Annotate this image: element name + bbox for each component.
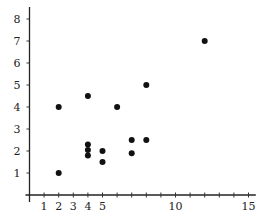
data-point	[56, 170, 62, 176]
y-tick-label: 2	[14, 145, 21, 158]
x-tick-label: 4	[84, 200, 91, 213]
data-point	[129, 150, 135, 156]
y-tick-label: 6	[14, 57, 21, 70]
y-tick-label: 4	[14, 101, 21, 114]
y-tick-label: 1	[14, 167, 21, 180]
y-tick-label: 3	[14, 123, 21, 136]
data-point	[143, 82, 149, 88]
scatter-plot: 123451015 12345678	[0, 0, 265, 218]
x-tick-label: 10	[169, 200, 183, 213]
y-tick-label: 8	[14, 13, 21, 26]
y-ticks: 12345678	[14, 13, 30, 180]
data-point	[202, 38, 208, 44]
y-tick-label: 5	[14, 79, 21, 92]
data-point	[114, 104, 120, 110]
data-point	[85, 93, 91, 99]
data-point	[143, 137, 149, 143]
x-tick-label: 5	[99, 200, 106, 213]
data-point	[85, 141, 91, 147]
x-tick-label: 1	[41, 200, 48, 213]
x-tick-label: 2	[55, 200, 62, 213]
data-point	[100, 148, 106, 154]
data-point	[85, 152, 91, 158]
x-tick-label: 3	[70, 200, 77, 213]
data-point	[100, 159, 106, 165]
data-point	[129, 137, 135, 143]
data-point	[56, 104, 62, 110]
data-points	[56, 38, 208, 176]
x-tick-label: 15	[242, 200, 256, 213]
data-point	[85, 147, 91, 153]
y-tick-label: 7	[14, 35, 21, 48]
